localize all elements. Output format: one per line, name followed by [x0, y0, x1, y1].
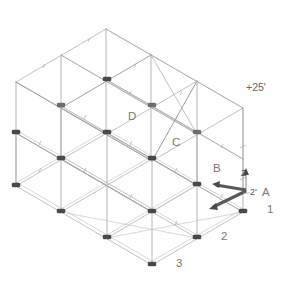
grid-label-3: 3	[176, 257, 182, 269]
lower-plane-grid	[16, 80, 243, 265]
node-markers-lower	[12, 130, 247, 266]
dimension-label-2ft: 2'	[250, 187, 257, 197]
node-markers-mid	[57, 77, 201, 134]
frame-svg: +25' D C B A 1 2 3 2' Z	[0, 0, 287, 291]
grid-label-1: 1	[267, 203, 273, 215]
axis-label-z: Z	[241, 168, 246, 178]
grid-label-d: D	[128, 110, 136, 122]
grid-label-b: B	[213, 162, 221, 174]
elevation-label: +25'	[246, 81, 266, 93]
grid-label-2: 2	[221, 230, 227, 242]
grid-label-a: A	[262, 186, 270, 198]
isometric-frame-diagram: +25' D C B A 1 2 3 2' Z	[0, 0, 287, 291]
columns	[16, 29, 243, 265]
text-labels: +25' D C B A 1 2 3 2' Z	[128, 81, 273, 269]
grid-label-c: C	[172, 136, 180, 148]
roof-plane-grid	[16, 29, 243, 161]
